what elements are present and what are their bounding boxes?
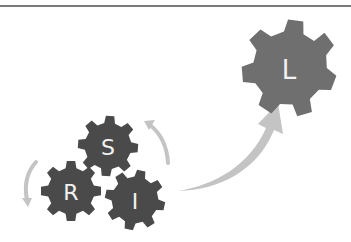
gear-s: S (76, 114, 140, 178)
cycle-arrow-right-icon (144, 120, 168, 163)
gear-l-label: L (282, 55, 297, 85)
gear-s-label: S (101, 135, 115, 160)
gear-i-label: I (132, 189, 139, 214)
gear-diagram: L S R I (0, 0, 351, 242)
gear-r-label: R (63, 180, 78, 205)
growth-arrow-icon (178, 103, 283, 191)
gear-r: R (41, 161, 101, 221)
cycle-arrow-left-icon (22, 162, 36, 207)
gear-l: L (236, 14, 343, 122)
